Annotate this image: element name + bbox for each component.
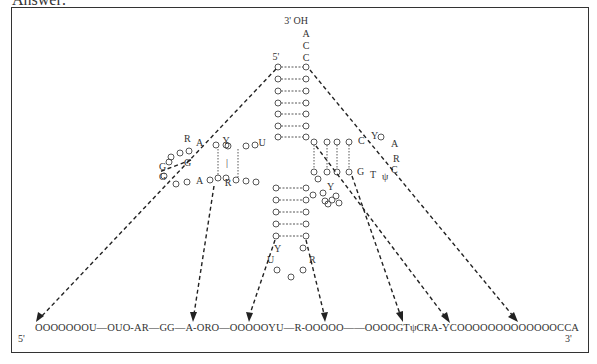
acceptor-a-label: A bbox=[302, 28, 310, 39]
t-loop-y-label: Y bbox=[371, 130, 378, 141]
acceptor-c1-label: C bbox=[303, 40, 310, 51]
d-loop-u-label: U bbox=[258, 137, 266, 148]
d-loop-g2-label: G bbox=[159, 171, 166, 182]
d-loop-a2-label: A bbox=[196, 175, 204, 186]
t-loop-a-label: A bbox=[391, 138, 399, 149]
linear-five-prime-label: 5' bbox=[18, 333, 25, 344]
t-loop-psi-label: ψ bbox=[382, 171, 389, 182]
acceptor-stem bbox=[275, 64, 309, 140]
d-loop-y-label: Y bbox=[222, 135, 229, 146]
mapping-arrows bbox=[40, 69, 513, 318]
t-loop-c-label: C bbox=[358, 135, 365, 146]
linear-sequence: OOOOOOOU—OUO-AR—GG—A-ORO—OOOOOYU—R-OOOOO… bbox=[35, 322, 579, 333]
d-pair-bar: | bbox=[226, 157, 228, 168]
anticodon-y-label: Y bbox=[274, 243, 281, 254]
t-loop-t-label: T bbox=[370, 169, 376, 180]
five-prime-top-label: 5' bbox=[273, 51, 280, 62]
trna-diagram: 3' OH A C C 5' G G G R A Y bbox=[0, 0, 597, 364]
anticodon-arm bbox=[273, 185, 309, 280]
three-prime-oh-label: 3' OH bbox=[284, 15, 308, 26]
anticodon-u-label: U bbox=[267, 254, 275, 265]
acceptor-c2-label: C bbox=[303, 52, 310, 63]
variable-loop bbox=[310, 190, 342, 207]
t-loop-g-label: G bbox=[357, 166, 364, 177]
linear-three-prime-label: 3' bbox=[565, 333, 572, 344]
variable-y-label: Y bbox=[327, 181, 334, 192]
d-loop-r2-label: R bbox=[225, 177, 232, 188]
t-loop-r-label: R bbox=[393, 153, 400, 164]
d-loop-r-label: R bbox=[184, 133, 191, 144]
d-arm bbox=[161, 142, 259, 187]
